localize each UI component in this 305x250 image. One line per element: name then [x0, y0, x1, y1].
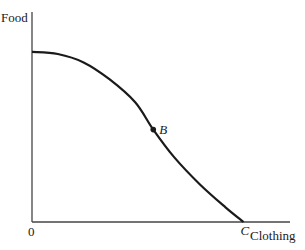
origin-label: 0: [28, 224, 35, 239]
point-b-label: B: [159, 122, 167, 137]
point-b-marker: [150, 127, 156, 133]
ppf-curve: [32, 52, 244, 222]
y-axis-label: Food: [1, 10, 28, 25]
diagram: BC Food Clothing 0: [0, 0, 305, 250]
ppf-chart: BC Food Clothing 0: [0, 0, 305, 250]
x-axis-label: Clothing: [250, 228, 296, 243]
point-c-label: C: [241, 223, 250, 238]
